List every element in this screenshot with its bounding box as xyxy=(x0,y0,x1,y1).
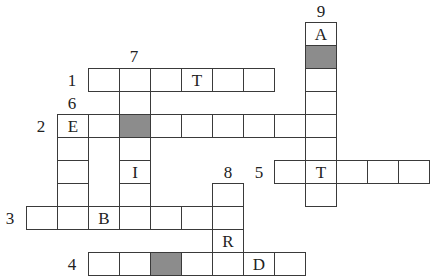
crossword-cell[interactable] xyxy=(336,160,368,184)
crossword-cell[interactable] xyxy=(181,252,213,276)
crossword-cell[interactable] xyxy=(26,206,58,230)
crossword-cell[interactable] xyxy=(119,91,151,115)
clue-number-7: 7 xyxy=(130,48,139,65)
clue-number-4: 4 xyxy=(68,256,77,273)
crossword-cell[interactable] xyxy=(181,206,213,230)
crossword-cell[interactable] xyxy=(119,183,151,207)
crossword-cell[interactable] xyxy=(398,160,430,184)
crossword-cell[interactable] xyxy=(305,114,337,138)
clue-number-9: 9 xyxy=(317,3,326,20)
clue-number-1: 1 xyxy=(68,72,77,89)
crossword-cell[interactable] xyxy=(119,206,151,230)
clue-number-3: 3 xyxy=(6,210,15,227)
crossword-cell[interactable] xyxy=(274,114,306,138)
crossword-cell[interactable]: E xyxy=(57,114,89,138)
crossword-cell[interactable]: D xyxy=(243,252,275,276)
crossword-cell[interactable] xyxy=(88,252,120,276)
shaded-cell xyxy=(305,45,337,69)
crossword-cell[interactable] xyxy=(212,206,244,230)
crossword-cell[interactable] xyxy=(305,183,337,207)
crossword-cell[interactable] xyxy=(119,137,151,161)
crossword-cell[interactable]: I xyxy=(119,160,151,184)
crossword-cell[interactable] xyxy=(57,206,89,230)
crossword-cell[interactable] xyxy=(305,68,337,92)
crossword-cell[interactable] xyxy=(88,68,120,92)
crossword-cell[interactable] xyxy=(119,252,151,276)
clue-number-8: 8 xyxy=(224,164,233,181)
clue-number-2: 2 xyxy=(37,118,46,135)
crossword-cell[interactable] xyxy=(88,114,120,138)
crossword-cell[interactable] xyxy=(212,183,244,207)
clue-number-5: 5 xyxy=(255,164,264,181)
crossword-cell[interactable] xyxy=(243,68,275,92)
crossword-cell[interactable] xyxy=(274,252,306,276)
crossword-cell[interactable]: T xyxy=(181,68,213,92)
clue-number-6: 6 xyxy=(68,95,77,112)
crossword-cell[interactable] xyxy=(150,206,182,230)
crossword-cell[interactable] xyxy=(150,114,182,138)
shaded-cell xyxy=(150,252,182,276)
crossword-cell[interactable] xyxy=(150,68,182,92)
crossword-grid: TEBDTIRA123456789 xyxy=(0,0,436,278)
crossword-cell[interactable] xyxy=(119,68,151,92)
shaded-cell xyxy=(119,114,151,138)
crossword-cell[interactable] xyxy=(243,114,275,138)
crossword-cell[interactable]: T xyxy=(305,160,337,184)
crossword-cell[interactable] xyxy=(212,252,244,276)
crossword-cell[interactable] xyxy=(57,183,89,207)
crossword-cell[interactable] xyxy=(212,114,244,138)
crossword-cell[interactable] xyxy=(212,68,244,92)
crossword-cell[interactable]: A xyxy=(305,22,337,46)
crossword-cell[interactable] xyxy=(305,91,337,115)
crossword-cell[interactable] xyxy=(57,160,89,184)
crossword-cell[interactable] xyxy=(181,114,213,138)
crossword-cell[interactable]: R xyxy=(212,229,244,253)
crossword-cell[interactable] xyxy=(305,137,337,161)
crossword-cell[interactable] xyxy=(57,137,89,161)
crossword-cell[interactable] xyxy=(274,160,306,184)
crossword-cell[interactable] xyxy=(367,160,399,184)
crossword-cell[interactable]: B xyxy=(88,206,120,230)
